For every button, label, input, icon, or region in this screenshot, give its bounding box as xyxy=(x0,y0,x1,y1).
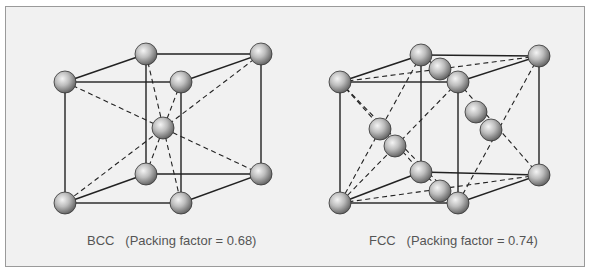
face-center-atom xyxy=(465,101,487,123)
body-center-atom xyxy=(152,117,174,139)
face-center-atom xyxy=(480,119,502,141)
fcc-caption: FCC (Packing factor = 0.74) xyxy=(369,233,538,248)
face-center-atom xyxy=(369,118,391,140)
atom xyxy=(410,161,432,183)
atom xyxy=(250,163,272,185)
face-center-atom xyxy=(384,135,406,157)
atom xyxy=(447,192,469,214)
fcc-packing-factor: (Packing factor = 0.74) xyxy=(407,233,538,248)
atom xyxy=(135,163,157,185)
atom xyxy=(54,192,76,214)
bcc-packing-factor: (Packing factor = 0.68) xyxy=(125,233,256,248)
atom xyxy=(447,71,469,93)
bcc-label: BCC xyxy=(87,233,114,248)
atom xyxy=(329,71,351,93)
fcc-label: FCC xyxy=(369,233,396,248)
atom xyxy=(250,43,272,65)
atom xyxy=(528,164,550,186)
fcc-unit-cell xyxy=(329,44,550,214)
atom xyxy=(528,45,550,67)
face-center-atom xyxy=(429,58,451,80)
bcc-unit-cell xyxy=(54,43,272,214)
bcc-caption: BCC (Packing factor = 0.68) xyxy=(87,233,256,248)
atom xyxy=(329,192,351,214)
atom xyxy=(135,43,157,65)
atom xyxy=(410,44,432,66)
atom xyxy=(170,192,192,214)
atom xyxy=(54,71,76,93)
atom xyxy=(170,71,192,93)
